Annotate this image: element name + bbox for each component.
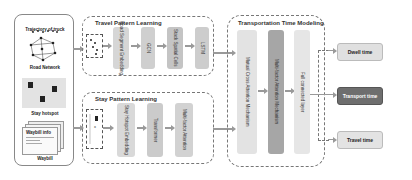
waybill-card: Waybill info <box>22 127 58 155</box>
transport-model-title: Transportation Time Modeling <box>238 20 324 26</box>
arrow <box>285 90 292 92</box>
trajectory-label: Trajectory of truck <box>15 27 75 32</box>
gcn-block: GCN <box>141 27 155 69</box>
multi-factor-attention-mechanism-block: Multi-factor Attention Mechanism <box>268 30 284 154</box>
stay-hotspot-label: Stay hotspot <box>15 111 75 116</box>
output-bracket <box>318 50 329 141</box>
full-connected-layer-block: Full connected layer <box>294 30 310 154</box>
arrow-to-transport <box>310 94 334 95</box>
stack-spatial-cells-block: Stack Spatial Cells <box>167 27 183 69</box>
stay-sample-icon: x <box>86 109 103 149</box>
stay-hotspot-embedding-block: Stay Hotspot Embedding <box>117 103 135 157</box>
arrow <box>258 90 265 92</box>
arrow-to-travel-time <box>328 139 334 140</box>
waybill-card-title: Waybill info <box>23 128 57 137</box>
arrow <box>103 45 109 47</box>
road-network-icon <box>27 35 63 63</box>
arrow <box>137 127 144 129</box>
arrow-to-travel <box>73 48 81 50</box>
lstm-block: LSTM <box>195 27 209 69</box>
arrow <box>157 45 164 47</box>
transport-time-output: Transport time <box>337 87 383 105</box>
stay-pattern-panel: Stay Pattern Learning x Stay Hotspot Emb… <box>82 92 214 164</box>
mutual-cross-attention-block: Mutual Cross Attention Mechanism <box>237 30 257 154</box>
stay-hotspot-map <box>22 78 66 108</box>
arrow <box>185 45 192 47</box>
transport-model-panel: Transportation Time Modeling Mutual Cros… <box>227 15 325 167</box>
arrow-to-dwell <box>328 50 334 51</box>
arrow <box>103 127 111 129</box>
stay-pattern-title: Stay Pattern Learning <box>95 96 157 102</box>
travel-pattern-panel: Travel Pattern Learning Road Segment Emb… <box>82 16 214 76</box>
arrow <box>165 127 172 129</box>
travel-pattern-title: Travel Pattern Learning <box>95 20 162 26</box>
dwell-time-output: Dwell time <box>337 43 383 61</box>
trajectory-dots-icon <box>31 20 59 25</box>
svg-text:x: x <box>94 124 96 129</box>
waybill-label: Waybill <box>15 156 75 161</box>
transformer-block: Transformer <box>147 103 163 157</box>
waybill-lines <box>26 137 54 138</box>
input-panel: Trajectory of truck Road Network Stay ho… <box>14 14 74 166</box>
road-segment-embedding-block: Road Segment Embedding <box>113 27 129 69</box>
arrow <box>131 45 138 47</box>
trajectory-sample-icon <box>86 34 103 58</box>
multi-factor-attention-block: Multi-factor Attention <box>175 103 193 157</box>
arrow-to-stay <box>73 127 81 129</box>
road-network-label: Road Network <box>15 65 75 70</box>
travel-time-output: Travel time <box>337 131 383 149</box>
